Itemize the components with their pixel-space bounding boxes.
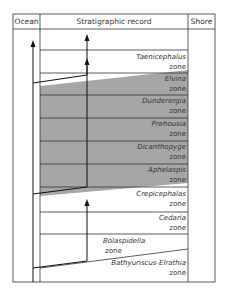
zone-label-elvina: Elvinazone [165, 74, 186, 94]
header-stratigraphic-record: Stratigraphic record [40, 14, 188, 29]
header-shore: Shore [188, 14, 215, 29]
zone-label-prehousia: Prehousiazone [152, 119, 186, 139]
zone-label-aphelaspis: Aphelaspiszone [148, 165, 186, 185]
arrowhead-icon [85, 199, 90, 206]
zone-label-crepicephalas: Crepicephalaszone [136, 189, 186, 209]
zone-label-dicanthopyge: Dicanthopygezone [137, 142, 186, 162]
zone-label-taenicephalus: Taenicephaluszone [136, 52, 186, 72]
zone-label-bolaspidella: Bolaspidellazone [103, 236, 145, 256]
zone-label-bathyuriscus-elrathia: Bathyuriscus-Elrathiazone [111, 258, 186, 278]
arrowhead-icon [31, 40, 36, 47]
zone-label-cedaria: Cedariazone [159, 213, 186, 233]
header-ocean: Ocean [13, 14, 40, 29]
arrowhead-icon [85, 58, 90, 65]
arrowhead-icon [85, 34, 90, 41]
zone-label-dunderergia: Dunderergiazone [142, 96, 186, 116]
